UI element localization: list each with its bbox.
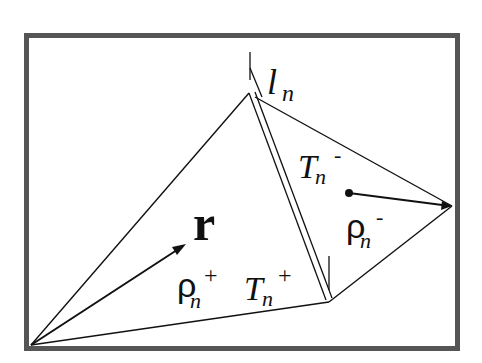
rwg-diagram: l n T n - ρ n - r ρ n + T n + [0,0,482,363]
rho-minus-vector [349,193,450,206]
rho-minus-superscript: - [376,204,383,229]
rho-minus-subscript: n [360,228,371,253]
r-vector [31,248,180,345]
edge-label: l [267,62,277,102]
r-arrowhead-icon [172,244,186,255]
t-plus-superscript: + [278,262,292,288]
triangle-plus-edge-left [31,93,249,345]
diagram-frame [27,36,458,349]
rho-plus-superscript: + [204,262,218,288]
triangle-plus-edge-bottom [31,302,329,345]
t-minus-superscript: - [334,142,341,167]
r-label: r [193,195,215,251]
edge-label-subscript: n [282,80,294,106]
shared-edge-line-2 [255,92,332,298]
rho-plus-subscript: n [190,288,201,313]
t-minus-subscript: n [315,164,326,189]
edge-arrow-top-icon [250,68,262,97]
t-plus-subscript: n [262,286,273,311]
